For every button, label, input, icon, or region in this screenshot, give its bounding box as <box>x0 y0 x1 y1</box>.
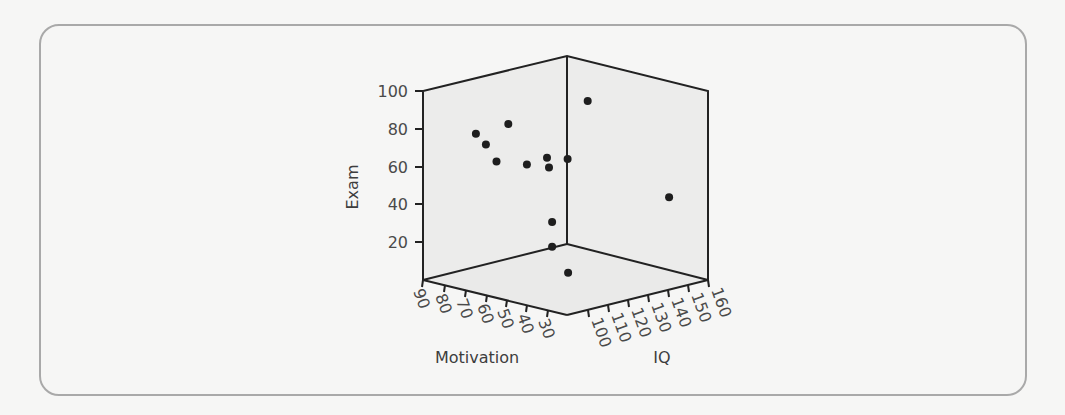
motivation-tick-30: 30 <box>534 316 559 342</box>
motivation-tick-80: 80 <box>431 291 456 317</box>
data-point <box>665 193 673 201</box>
data-point <box>543 154 551 162</box>
data-point <box>482 140 490 148</box>
data-point <box>564 269 572 277</box>
motivation-tick-90: 90 <box>409 286 434 312</box>
scatter-3d-plot: 100 80 60 40 20 Exam 90 80 70 60 50 40 3… <box>0 0 1065 415</box>
iq-axis-title: IQ <box>653 348 670 367</box>
exam-tick-80: 80 <box>388 120 408 139</box>
data-point <box>472 130 480 138</box>
exam-tick-40: 40 <box>388 195 408 214</box>
data-point <box>545 164 553 172</box>
exam-tick-60: 60 <box>388 158 408 177</box>
motivation-tick-70: 70 <box>452 296 477 322</box>
data-point <box>523 161 531 169</box>
data-point <box>564 155 572 163</box>
data-point <box>548 243 556 251</box>
data-point <box>493 157 501 165</box>
exam-axis <box>415 91 423 242</box>
data-point <box>548 218 556 226</box>
exam-tick-100: 100 <box>377 82 408 101</box>
motivation-tick-40: 40 <box>513 311 538 337</box>
motivation-axis-title: Motivation <box>435 348 519 367</box>
exam-axis-title: Exam <box>343 165 362 210</box>
exam-tick-20: 20 <box>388 233 408 252</box>
data-point <box>584 97 592 105</box>
data-point <box>504 120 512 128</box>
right-wall <box>567 56 708 280</box>
